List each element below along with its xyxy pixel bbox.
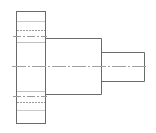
flange-outline: [17, 12, 46, 124]
technical-drawing: [0, 0, 156, 133]
